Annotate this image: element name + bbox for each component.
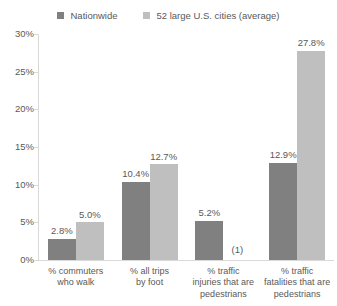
- y-axis-tick-mark: [34, 185, 38, 186]
- bar[interactable]: [269, 163, 297, 260]
- bar-slot: (1): [223, 34, 251, 260]
- bar-slot: 5.0%: [76, 34, 104, 260]
- x-axis-label: % commuterswho walk: [39, 266, 113, 300]
- y-axis-tick-mark: [34, 260, 38, 261]
- chart-legend: Nationwide 52 large U.S. cities (average…: [0, 11, 337, 21]
- y-axis-tick-mark: [34, 147, 38, 148]
- bar-slot: 27.8%: [297, 34, 325, 260]
- bar-value-label: 5.0%: [79, 210, 101, 220]
- bar-value-label: 12.7%: [150, 152, 177, 162]
- bar-group: 12.9%27.8%: [260, 34, 334, 260]
- legend-swatch-nationwide: [57, 12, 64, 19]
- y-axis-tick-mark: [34, 34, 38, 35]
- grouped-bar-chart: Nationwide 52 large U.S. cities (average…: [0, 0, 337, 306]
- bar[interactable]: [76, 222, 104, 260]
- legend-item-52-large-cities[interactable]: 52 large U.S. cities (average): [143, 11, 279, 21]
- y-axis-tick-mark: [34, 109, 38, 110]
- x-axis-label: % all tripsby foot: [113, 266, 187, 300]
- x-axis-category-labels: % commuterswho walk% all tripsby foot% t…: [39, 266, 334, 300]
- legend-label-nationwide: Nationwide: [70, 11, 117, 21]
- y-tick-label: 20%: [2, 105, 34, 115]
- bar-value-label: 12.9%: [270, 150, 297, 160]
- bar[interactable]: [150, 164, 178, 260]
- bar-group: 10.4%12.7%: [113, 34, 187, 260]
- x-axis-baseline: [38, 260, 334, 261]
- bar[interactable]: [48, 239, 76, 260]
- bar-value-label: 2.8%: [51, 226, 73, 236]
- bar-slot: 2.8%: [48, 34, 76, 260]
- bar-value-label: 10.4%: [122, 169, 149, 179]
- bar-slot: 12.9%: [269, 34, 297, 260]
- y-tick-label: 0%: [2, 255, 34, 265]
- y-tick-label: 30%: [2, 29, 34, 39]
- footnote-marker: (1): [232, 245, 244, 255]
- y-tick-label: 25%: [2, 67, 34, 77]
- legend-label-52-large-cities: 52 large U.S. cities (average): [156, 11, 279, 21]
- x-axis-label: % trafficfatalities that arepedestrians: [260, 266, 334, 300]
- bar-slot: 5.2%: [195, 34, 223, 260]
- bar-slot: 10.4%: [122, 34, 150, 260]
- y-axis-tick-mark: [34, 222, 38, 223]
- bar[interactable]: [297, 51, 325, 260]
- x-axis-label: % trafficinjuries that arepedestrians: [187, 266, 261, 300]
- y-tick-label: 15%: [2, 142, 34, 152]
- bar-groups: 2.8%5.0%10.4%12.7%5.2%(1)12.9%27.8%: [39, 34, 334, 260]
- bar-slot: 12.7%: [150, 34, 178, 260]
- bar-value-label: 27.8%: [298, 38, 325, 48]
- y-tick-label: 10%: [2, 180, 34, 190]
- legend-item-nationwide[interactable]: Nationwide: [57, 11, 117, 21]
- bar-group: 5.2%(1): [187, 34, 261, 260]
- bar[interactable]: [195, 221, 223, 260]
- plot-area: 2.8%5.0%10.4%12.7%5.2%(1)12.9%27.8%: [38, 34, 334, 260]
- bar-group: 2.8%5.0%: [39, 34, 113, 260]
- bar-value-label: 5.2%: [199, 208, 221, 218]
- legend-swatch-52-large-cities: [143, 12, 150, 19]
- y-tick-label: 5%: [2, 218, 34, 228]
- y-axis-tick-labels: 30%25%20%15%10%5%0%: [0, 34, 34, 260]
- bar[interactable]: [122, 182, 150, 260]
- y-axis-tick-mark: [34, 72, 38, 73]
